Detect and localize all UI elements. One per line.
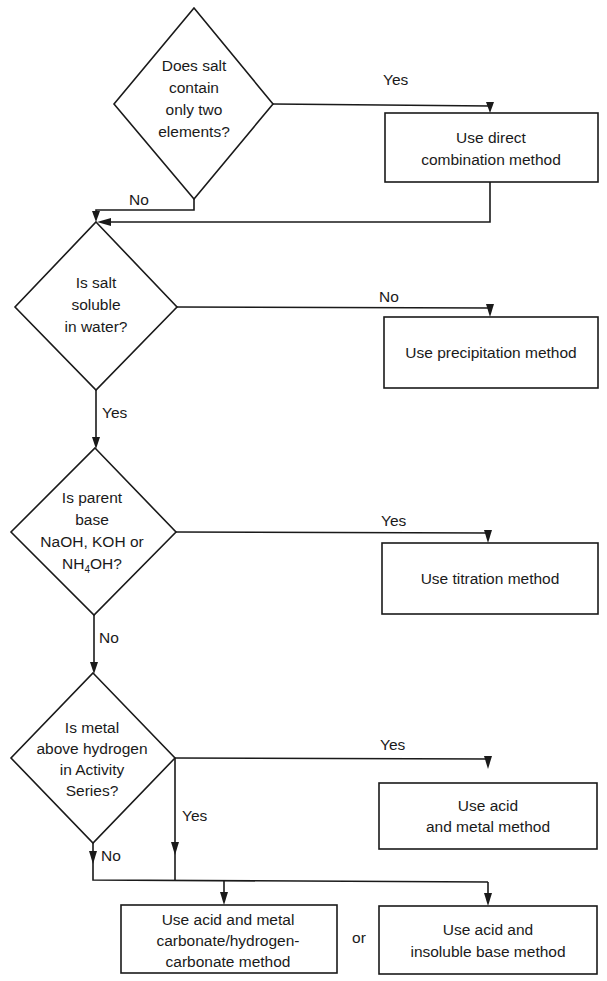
connector-d4-yes-right — [175, 758, 488, 763]
outcome-acid-and-metal: Use acid and metal method — [379, 783, 597, 849]
decision-text: elements? — [158, 123, 230, 140]
arrowhead — [220, 892, 228, 905]
outcome-direct-combination: Use direct combination method — [385, 113, 598, 182]
decision-text: Does salt — [162, 57, 227, 74]
outcome-acid-and-insoluble-base: Use acid and insoluble base method — [379, 906, 597, 974]
outcome-text: Use titration method — [421, 570, 560, 587]
connector-d2-no — [177, 307, 490, 310]
arrowhead — [89, 851, 97, 864]
outcome-text: combination method — [421, 151, 561, 168]
arrowhead — [171, 842, 179, 855]
edge-label-no: No — [99, 629, 119, 646]
outcome-text: Use acid and metal — [162, 911, 295, 928]
outcome-titration: Use titration method — [382, 543, 598, 614]
outcome-text: Use precipitation method — [405, 344, 576, 361]
decision-contains-two-elements: Does salt contain only two elements? — [114, 8, 273, 199]
edge-label-yes: Yes — [182, 807, 208, 824]
edge-label-yes: Yes — [380, 736, 406, 753]
decision-text: Is salt — [76, 274, 117, 291]
outcome-text: insoluble base method — [410, 943, 565, 960]
decision-text: in Activity — [60, 761, 125, 778]
edge-label-yes: Yes — [102, 404, 128, 421]
decision-soluble-in-water: Is salt soluble in water? — [15, 222, 177, 390]
arrowhead — [92, 211, 100, 222]
decision-text: base — [75, 511, 109, 528]
decision-parent-base: Is parent base NaOH, KOH or NH4OH? — [11, 448, 176, 615]
outcome-acid-and-carbonate: Use acid and metal carbonate/hydrogen- c… — [121, 905, 337, 973]
decision-text: only two — [166, 101, 223, 118]
arrowhead — [484, 530, 492, 543]
edge-label-no: No — [129, 191, 149, 208]
decision-text: soluble — [71, 296, 120, 313]
edge-label-no: No — [101, 847, 121, 864]
arrowhead — [484, 893, 492, 906]
edge-label-yes: Yes — [383, 71, 409, 88]
edge-label-yes: Yes — [381, 512, 407, 529]
outcome-text: Use acid and — [443, 921, 533, 938]
decision-text: Is metal — [65, 719, 119, 736]
decision-metal-above-hydrogen: Is metal above hydrogen in Activity Seri… — [11, 673, 175, 843]
decision-text: Series? — [66, 782, 119, 799]
connector-box1-return — [106, 182, 490, 222]
outcome-precipitation: Use precipitation method — [384, 317, 598, 388]
connector-d1-yes — [273, 104, 490, 108]
arrowhead — [484, 756, 492, 769]
edge-label-no: No — [379, 288, 399, 305]
or-label: or — [352, 929, 366, 946]
decision-text: above hydrogen — [36, 740, 147, 757]
outcome-text: carbonate method — [166, 953, 291, 970]
arrowhead — [486, 102, 494, 113]
decision-text: in water? — [65, 318, 128, 335]
flowchart: Does salt contain only two elements? Yes… — [0, 0, 607, 981]
decision-text: contain — [169, 79, 219, 96]
outcome-text: and metal method — [426, 818, 550, 835]
decision-text: NaOH, KOH or — [40, 533, 143, 550]
connector-d3-yes — [176, 532, 488, 537]
outcome-text: Use acid — [458, 797, 518, 814]
arrowhead — [486, 304, 494, 317]
outcome-text: carbonate/hydrogen- — [156, 932, 299, 949]
outcome-text: Use direct — [456, 129, 526, 146]
decision-text: Is parent — [62, 489, 123, 506]
arrowhead — [90, 662, 98, 674]
arrowhead — [92, 437, 100, 449]
